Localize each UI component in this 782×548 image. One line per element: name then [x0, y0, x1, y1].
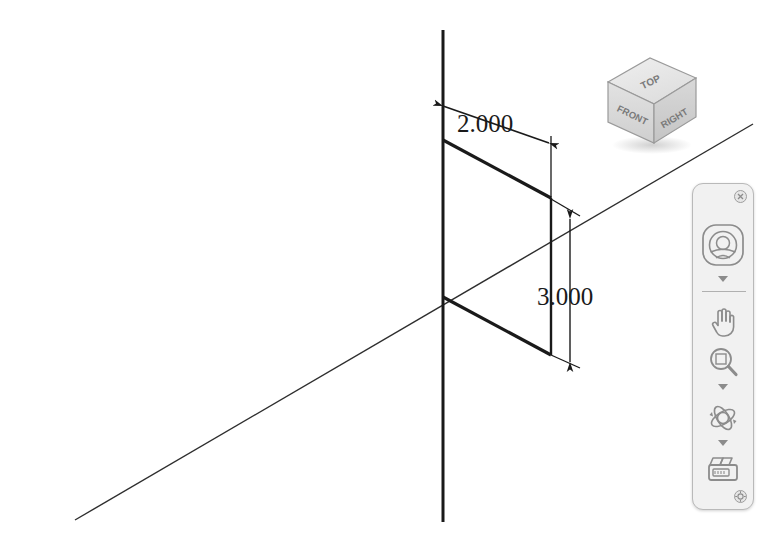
toolbar-separator — [702, 291, 746, 292]
height-extension-line-2 — [551, 355, 580, 368]
view-orientation-button[interactable] — [700, 222, 746, 268]
height-extension-line-1 — [551, 199, 580, 216]
heads-up-view-toolbar[interactable] — [692, 183, 754, 510]
application-window: 2.000 3.000 — [0, 0, 782, 548]
view-orientation-dropdown-caret[interactable] — [718, 276, 728, 282]
camera-icon — [704, 452, 742, 486]
width-dimension-value[interactable]: 2.000 — [457, 110, 513, 137]
height-dimension-value[interactable]: 3.000 — [537, 283, 593, 310]
pan-button[interactable] — [705, 303, 741, 339]
rectangle-top-edge[interactable] — [443, 140, 551, 198]
hand-icon — [705, 303, 741, 339]
close-icon[interactable] — [733, 189, 748, 204]
pin-icon[interactable] — [733, 489, 748, 504]
rectangle-bottom-edge[interactable] — [443, 297, 551, 355]
rotate-view-button[interactable] — [705, 400, 741, 436]
rotate-dropdown-caret[interactable] — [718, 440, 728, 446]
magnifier-icon — [705, 344, 741, 380]
orbit-icon — [705, 400, 741, 436]
zoom-dropdown-caret[interactable] — [718, 384, 728, 390]
view-cube[interactable]: TOP FRONT RIGHT — [596, 52, 712, 156]
zoom-to-area-button[interactable] — [705, 344, 741, 380]
display-style-button[interactable] — [704, 452, 742, 486]
diagonal-reference-axis — [75, 124, 753, 520]
steering-wheel-icon — [700, 222, 746, 268]
